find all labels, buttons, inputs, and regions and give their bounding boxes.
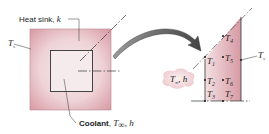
coolant-label: Coolant, T∞, h xyxy=(79,118,134,130)
ambient-bubble-label: T∞, h xyxy=(170,74,188,85)
curved-arrow-icon xyxy=(113,29,201,59)
surface-temp-left-label: Ts xyxy=(8,38,15,49)
heat-sink-diagram: Heat sink, k Ts Coolant, T∞, h T1 T2 T3 … xyxy=(0,0,269,134)
heat-sink-label: Heat sink, k xyxy=(19,14,62,24)
surface-temp-left-leader xyxy=(14,44,31,49)
surface-temp-right-label: Ts xyxy=(258,50,265,61)
surface-temp-right-leader xyxy=(241,56,257,60)
